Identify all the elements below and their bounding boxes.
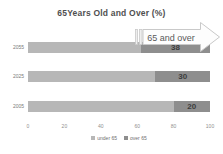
x-tick: 60 [134,123,140,129]
annotation-arrow: 65 and over [131,20,223,54]
legend-label: over 65 [130,135,147,141]
x-tick: 100 [206,123,214,129]
x-tick: 40 [98,123,104,129]
arrow-stripe-icon [140,30,143,45]
chart-title: 65Years Old and Over (%) [0,8,223,18]
y-axis-label: 2005 [1,101,24,112]
bar-row: 2025 30 [28,71,210,82]
chart: 65Years Old and Over (%) 2055 38 2025 30… [0,0,223,154]
segment-over-65: 30 [155,71,210,82]
legend-item-over-65: over 65 [124,135,147,141]
segment-under-65 [28,71,155,82]
y-axis-label: 2025 [1,71,24,82]
segment-under-65 [28,101,174,112]
bar-row: 2005 20 [28,101,210,112]
arrow-stripe-icon [136,30,138,45]
value-label: 30 [155,71,210,83]
y-axis-label: 2055 [1,42,24,53]
annotation-label: 65 and over [147,33,195,43]
legend-item-under-65: under 65 [91,135,117,141]
x-tick: 0 [27,123,30,129]
x-tick: 20 [62,123,68,129]
legend: under 65 over 65 [28,135,210,141]
segment-over-65: 20 [174,101,210,112]
x-tick: 80 [171,123,177,129]
segment-under-65 [28,42,141,53]
legend-label: under 65 [97,135,117,141]
legend-swatch-over-65-icon [124,136,128,140]
value-label: 20 [174,101,210,113]
legend-swatch-under-65-icon [91,136,95,140]
